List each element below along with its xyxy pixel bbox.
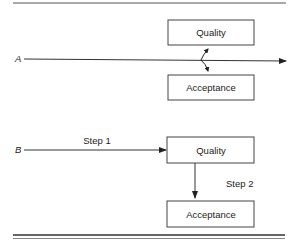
scenario-a-split-up-arrow	[201, 49, 208, 60]
scenario-a: A Quality Acceptance	[14, 20, 286, 100]
quality-acceptance-diagram: A Quality Acceptance B Step 1 Quality St…	[0, 0, 299, 250]
scenario-b-step1-label: Step 1	[83, 135, 110, 146]
scenario-b-label: B	[15, 144, 22, 155]
scenario-a-split-down-arrow	[201, 60, 208, 71]
scenario-b-quality-label: Quality	[196, 145, 226, 156]
scenario-a-quality-label: Quality	[196, 27, 226, 38]
scenario-b: B Step 1 Quality Step 2 Acceptance	[15, 135, 254, 227]
scenario-b-acceptance-label: Acceptance	[186, 209, 236, 220]
scenario-a-main-arrow	[24, 59, 286, 61]
scenario-a-acceptance-label: Acceptance	[186, 82, 236, 93]
scenario-b-step2-label: Step 2	[226, 178, 253, 189]
scenario-a-label: A	[14, 53, 21, 64]
